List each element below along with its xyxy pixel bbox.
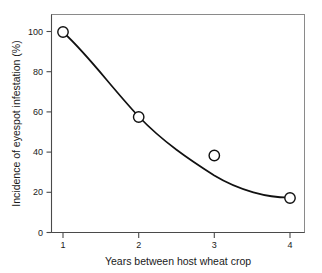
x-tick-label-1: 1: [60, 240, 65, 250]
x-tick-label-4: 4: [287, 240, 292, 250]
data-point-2: [134, 112, 144, 122]
y-tick-label-80: 80: [33, 67, 43, 77]
chart-figure: 0 20 40 60 80 100 1 2 3 4 Years between …: [0, 0, 322, 273]
data-point-4: [285, 193, 295, 203]
y-tick-label-100: 100: [28, 27, 43, 37]
x-tick-label-3: 3: [212, 240, 217, 250]
chart-canvas: 0 20 40 60 80 100 1 2 3 4 Years between …: [0, 0, 322, 273]
y-tick-label-0: 0: [38, 228, 43, 238]
y-tick-label-60: 60: [33, 107, 43, 117]
y-tick-label-20: 20: [33, 187, 43, 197]
y-tick-label-40: 40: [33, 147, 43, 157]
data-point-1: [58, 27, 68, 37]
data-point-3: [209, 150, 219, 160]
x-axis-label: Years between host wheat crop: [105, 255, 251, 267]
y-axis-label: Incidence of eyespot infestation (%): [10, 40, 22, 206]
x-tick-label-2: 2: [136, 240, 141, 250]
